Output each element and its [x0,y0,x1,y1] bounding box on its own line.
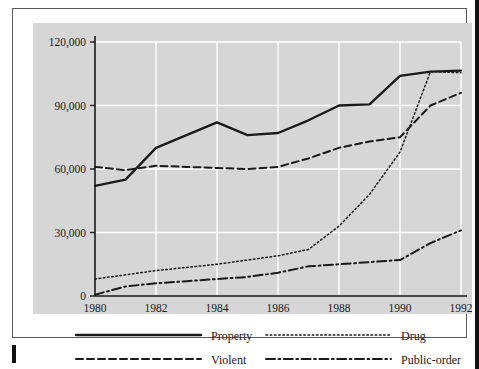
legend-label-violent: Violent [211,353,247,367]
legend-label-property: Property [211,329,252,343]
page-edge-tick-bottom-left [12,345,16,363]
x-tick-label: 1984 [206,302,229,314]
y-tick-label: 120,000 [49,36,87,49]
plot-panel: 030,00060,00090,000120,000 1980198219841… [33,23,472,314]
figure-page: 030,00060,00090,000120,000 1980198219841… [0,0,479,369]
figure-frame: 030,00060,00090,000120,000 1980198219841… [12,8,467,338]
x-axis-tick-labels: 1980198219841986198819901992 [84,302,473,314]
y-tick-label: 0 [80,290,86,302]
legend-label-drug: Drug [401,329,426,343]
y-axis-tick-labels: 030,00060,00090,000120,000 [49,36,87,302]
y-tick-label: 60,000 [54,163,86,176]
line-chart: 030,00060,00090,000120,000 1980198219841… [33,23,472,314]
chart-legend: PropertyDrugViolentPublic-order [33,321,472,369]
x-tick-label: 1988 [328,302,351,314]
x-tick-label: 1992 [450,302,473,314]
y-tick-label: 90,000 [54,100,86,113]
x-tick-label: 1980 [84,302,107,314]
gridlines [95,42,461,296]
x-tick-label: 1982 [145,302,168,314]
y-tick-label: 30,000 [54,227,86,240]
legend-label-public-order: Public-order [401,353,461,367]
page-edge-bar-right [475,0,479,369]
x-tick-label: 1990 [389,302,412,314]
x-tick-label: 1986 [267,302,290,314]
